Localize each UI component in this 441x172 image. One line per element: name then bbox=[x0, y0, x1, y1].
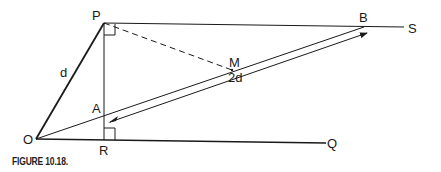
right-angle-r bbox=[104, 128, 115, 140]
line-oq bbox=[36, 139, 326, 143]
figure-caption: FIGURE 10.18. bbox=[12, 156, 68, 167]
dashed-pm bbox=[104, 23, 232, 70]
label-q: Q bbox=[327, 136, 337, 151]
label-s: S bbox=[408, 21, 417, 36]
right-angle-p bbox=[104, 24, 115, 35]
label-b: B bbox=[359, 10, 368, 25]
geometry-figure: P O R A B M S Q d 2d FIGURE 10.18. bbox=[0, 0, 441, 172]
label-a: A bbox=[92, 101, 101, 116]
label-d: d bbox=[60, 65, 67, 80]
diagram-canvas: P O R A B M S Q d 2d bbox=[0, 0, 441, 172]
label-o: O bbox=[23, 132, 33, 147]
label-2d: 2d bbox=[228, 70, 242, 85]
arrowhead-lower bbox=[108, 116, 118, 123]
label-r: R bbox=[99, 143, 108, 158]
line-ob bbox=[36, 27, 364, 139]
label-p: P bbox=[92, 8, 101, 23]
line-op bbox=[36, 23, 104, 139]
label-m: M bbox=[229, 55, 240, 70]
